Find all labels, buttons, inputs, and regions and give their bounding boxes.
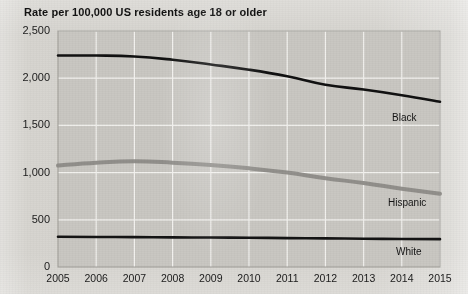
y-axis-tick-label: 0 — [4, 260, 50, 272]
y-axis-tick-label: 500 — [4, 213, 50, 225]
y-axis-tick-label: 1,500 — [4, 118, 50, 130]
series-label-hispanic: Hispanic — [388, 197, 426, 208]
y-axis-tick-label: 1,000 — [4, 166, 50, 178]
series-label-black: Black — [392, 112, 416, 123]
y-axis-tick-label: 2,500 — [4, 24, 50, 36]
x-axis-tick-label: 2015 — [418, 272, 462, 284]
y-axis-tick-label: 2,000 — [4, 71, 50, 83]
series-label-white: White — [396, 246, 422, 257]
